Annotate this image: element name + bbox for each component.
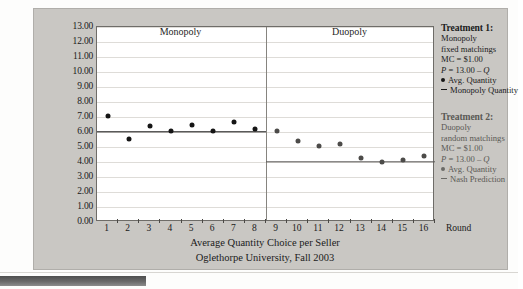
data-point	[190, 122, 195, 127]
legend-t1-heading: Treatment 1:	[441, 23, 523, 33]
legend-treatment-1: Treatment 1: Monopoly fixed matchings MC…	[441, 23, 523, 96]
data-point	[105, 113, 110, 118]
x-axis-tick-label: 9	[273, 223, 278, 233]
x-axis-tick-label: 1	[104, 223, 109, 233]
legend-t2-series-label: Avg. Quantity	[448, 164, 497, 174]
x-axis-tick-mark	[286, 219, 287, 223]
y-axis-tick-label: 8.00	[77, 96, 93, 106]
gridline	[97, 192, 433, 193]
gridline	[97, 102, 433, 103]
region-title-monopoly: Monopoly	[160, 26, 202, 37]
y-axis-tick-label: 4.00	[77, 156, 93, 166]
reference-line	[266, 161, 435, 162]
x-axis-tick-mark	[181, 219, 182, 223]
data-point	[422, 154, 427, 159]
gridline	[97, 147, 433, 148]
filled-circle-marker-icon	[441, 78, 445, 82]
data-point	[211, 128, 216, 133]
legend-t1-line-label: Monopoly Quantity	[450, 85, 518, 95]
legend-t1-line2: fixed matchings	[441, 44, 523, 54]
legend-treatment-2: Treatment 2: Duopoly random matchings MC…	[441, 112, 523, 185]
x-axis-title: Round	[446, 223, 471, 233]
x-axis-tick-mark	[117, 219, 118, 223]
x-axis-tick-mark	[307, 219, 308, 223]
x-axis-tick-label: 7	[231, 223, 236, 233]
x-axis-tick-label: 10	[292, 223, 302, 233]
data-point	[232, 120, 237, 125]
x-axis-tick-label: 12	[334, 223, 344, 233]
legend-t2-line2: random matchings	[441, 133, 523, 143]
x-axis-tick-label: 16	[419, 223, 429, 233]
legend-t2-line1: Duopoly	[441, 122, 523, 132]
x-axis-tick-label: 5	[189, 223, 194, 233]
legend-t2-marker-line: Nash Prediction	[441, 174, 523, 184]
y-axis-tick-label: 6.00	[77, 126, 93, 136]
data-point	[359, 155, 364, 160]
y-axis-tick-label: 3.00	[77, 171, 93, 181]
y-axis-tick-label: 9.00	[77, 81, 93, 91]
legend-t1-line3: MC = $1.00	[441, 54, 523, 64]
data-point	[401, 157, 406, 162]
chart-title: Average Quantity Choice per Seller	[96, 237, 434, 248]
x-axis-tick-label: 13	[355, 223, 365, 233]
y-axis-tick-label: 2.00	[77, 186, 93, 196]
reference-line	[97, 131, 266, 132]
x-axis-tick-mark	[223, 219, 224, 223]
legend-t2-line-label: Nash Prediction	[450, 174, 505, 184]
line-marker-icon	[441, 178, 447, 179]
line-marker-icon	[441, 89, 447, 90]
data-point	[168, 129, 173, 134]
data-point	[147, 124, 152, 129]
legend-t2-equation: = 13.00 –	[446, 154, 483, 164]
gridline	[97, 177, 433, 178]
x-axis-tick-label: 4	[168, 223, 173, 233]
data-point	[253, 127, 258, 132]
scan-edge-line	[0, 272, 518, 273]
y-axis-tick-label: 1.00	[77, 201, 93, 211]
data-point	[380, 160, 385, 165]
chart-panel: 13.0012.0011.0010.009.008.007.006.005.00…	[33, 8, 508, 270]
legend-t2-heading: Treatment 2:	[441, 112, 523, 122]
y-axis-tick-label: 5.00	[77, 141, 93, 151]
x-axis-tick-mark	[392, 219, 393, 223]
x-axis-tick-mark	[350, 219, 351, 223]
x-axis-tick-mark	[434, 219, 435, 223]
y-axis-tick-label: 10.00	[73, 66, 93, 76]
data-point	[316, 143, 321, 148]
x-axis-tick-label: 15	[398, 223, 408, 233]
legend-t1-line1: Monopoly	[441, 33, 523, 43]
gridline	[97, 27, 433, 28]
data-point	[274, 128, 279, 133]
chart-subtitle: Oglethorpe University, Fall 2003	[96, 252, 434, 263]
x-axis-tick-mark	[159, 219, 160, 223]
y-axis-labels: 13.0012.0011.0010.009.008.007.006.005.00…	[67, 26, 95, 221]
gridline	[97, 57, 433, 58]
gridline	[97, 72, 433, 73]
scan-artifact-bar	[0, 276, 146, 286]
plot-area	[96, 26, 434, 221]
x-axis-tick-label: 11	[313, 223, 322, 233]
gridline	[97, 207, 433, 208]
y-axis-tick-label: 7.00	[77, 111, 93, 121]
y-axis-tick-label: 0.00	[77, 216, 93, 226]
legend-t1-q-symbol: Q	[483, 65, 489, 75]
gridline	[97, 117, 433, 118]
gridline	[97, 42, 433, 43]
region-divider	[266, 27, 267, 220]
y-axis-tick-label: 13.00	[73, 21, 93, 31]
legend-t1-series-label: Avg. Quantity	[448, 75, 497, 85]
legend-t1-marker-line: Monopoly Quantity	[441, 85, 523, 95]
gridline	[97, 87, 433, 88]
filled-circle-marker-icon	[441, 167, 445, 171]
legend-t1-equation: = 13.00 –	[446, 65, 483, 75]
legend-t2-q-symbol: Q	[483, 154, 489, 164]
x-axis-tick-label: 14	[376, 223, 386, 233]
data-point	[337, 142, 342, 147]
x-axis-tick-label: 6	[210, 223, 215, 233]
x-axis-tick-mark	[265, 219, 266, 223]
legend-t2-line4: P = 13.00 – Q	[441, 154, 523, 164]
x-axis-labels: 12345678910111213141516	[96, 223, 434, 237]
x-axis-tick-label: 3	[146, 223, 151, 233]
x-axis-tick-mark	[244, 219, 245, 223]
